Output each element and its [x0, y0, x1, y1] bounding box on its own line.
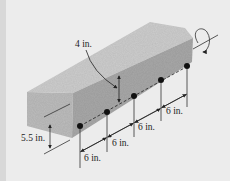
- spacing-label-3: 6 in.: [138, 122, 155, 132]
- torque-icon: [193, 29, 218, 52]
- offset-label: 4 in.: [75, 39, 92, 49]
- spacing-label-2: 6 in.: [112, 138, 129, 148]
- page-edge-shadow: [0, 0, 6, 181]
- spacing-label-1: 6 in.: [84, 153, 101, 163]
- bolt-3: [131, 93, 137, 99]
- bolt-4: [158, 77, 164, 83]
- spacing-label-4: 6 in.: [166, 106, 183, 116]
- bolt-1: [77, 123, 83, 129]
- height-label: 5.5 in.: [21, 133, 45, 143]
- beam-diagram: 4 in. 5.5 in. 6 in. 6 in. 6 in. 6 in.: [0, 0, 230, 181]
- bolt-5: [184, 63, 190, 69]
- bolt-2: [104, 109, 110, 115]
